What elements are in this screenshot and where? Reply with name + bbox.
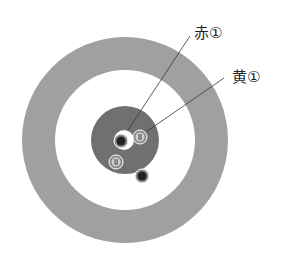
- label-red1: 赤①: [194, 26, 222, 41]
- curling-house-diagram: [0, 0, 285, 264]
- stone-yellow2: [109, 155, 123, 169]
- stone-red1: [114, 130, 134, 150]
- stone-yellow1: [133, 130, 147, 144]
- label-yellow1: 黄①: [232, 70, 260, 85]
- stone-red2: [135, 169, 149, 183]
